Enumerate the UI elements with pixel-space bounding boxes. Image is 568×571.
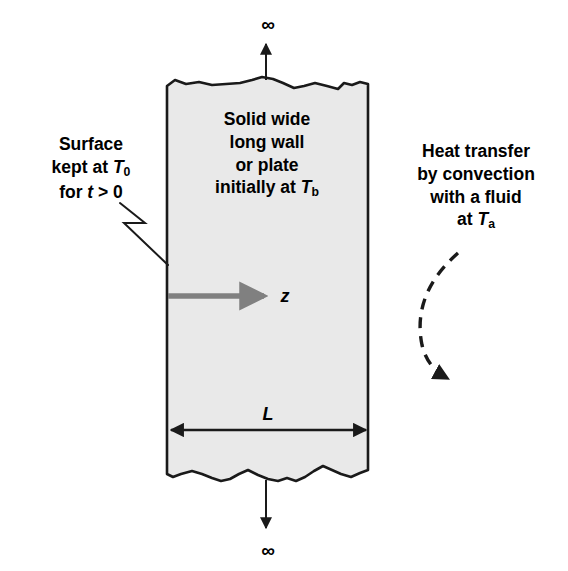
plate-description-label: Solid wide long wall or plate initially … (178, 108, 356, 201)
plate-label-line-1: Solid wide (178, 108, 356, 131)
initial-temperature-symbol: T (301, 177, 312, 197)
plate-label-line-2: long wall (178, 131, 356, 154)
surface-label-line-3-prefix: for (59, 182, 87, 202)
surface-boundary-label: Surface kept at T0 for t > 0 (18, 133, 164, 204)
plate-label-line-3: or plate (178, 154, 356, 177)
convection-label-line-4: at Ta (398, 208, 554, 233)
convection-label-line-4-prefix: at (457, 209, 477, 229)
surface-label-line-2: kept at T0 (18, 156, 164, 181)
fluid-temperature-symbol: T (477, 209, 488, 229)
initial-temperature-subscript: b (311, 185, 318, 199)
surface-temperature-symbol: T (113, 157, 124, 177)
surface-temperature-subscript: 0 (124, 165, 131, 179)
convection-label-line-1: Heat transfer (398, 140, 554, 163)
thickness-label: L (255, 404, 281, 425)
fluid-temperature-subscript: a (488, 217, 495, 231)
surface-label-line-3: for t > 0 (18, 181, 164, 204)
surface-label-line-1: Surface (18, 133, 164, 156)
surface-label-line-2-prefix: kept at (52, 157, 113, 177)
convection-boundary-label: Heat transfer by convection with a fluid… (398, 140, 554, 233)
z-axis-label: z (272, 286, 298, 307)
figure-root: ∞ ∞ Surface kept at T0 for t > 0 Solid w… (0, 0, 568, 571)
surface-leader-line (120, 203, 168, 265)
convection-arrow (420, 253, 458, 378)
infinity-symbol-top: ∞ (253, 14, 283, 36)
surface-label-line-3-suffix: > 0 (93, 182, 123, 202)
convection-label-line-3: with a fluid (398, 186, 554, 209)
plate-label-line-4-prefix: initially at (215, 177, 301, 197)
plate-label-line-4: initially at Tb (178, 176, 356, 201)
convection-label-line-2: by convection (398, 163, 554, 186)
infinity-symbol-bottom: ∞ (253, 540, 283, 562)
